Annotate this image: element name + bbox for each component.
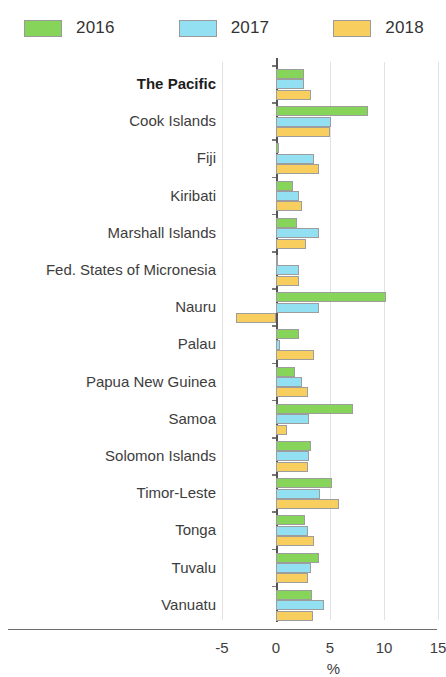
bar-2016-nauru <box>276 292 386 302</box>
category-label-solomon-islands: Solomon Islands <box>105 448 216 463</box>
category-label-samoa: Samoa <box>168 411 216 426</box>
category-tick <box>272 549 276 551</box>
bar-2016-fiji <box>276 143 279 153</box>
bar-2017-papua-new-guinea <box>276 377 302 387</box>
category-tick <box>272 474 276 476</box>
category-tick <box>272 325 276 327</box>
category-label-marshall-islands: Marshall Islands <box>108 225 216 240</box>
x-axis-title: % <box>222 660 445 677</box>
x-tick-label--5: -5 <box>215 639 228 656</box>
x-tick-label-5: 5 <box>326 639 334 656</box>
bar-2018-samoa <box>276 425 287 435</box>
category-tick <box>272 511 276 513</box>
bar-2016-fed-states-of-micronesia <box>276 255 278 265</box>
bar-2016-cook-islands <box>276 106 368 116</box>
bar-2018-timor-leste <box>276 499 339 509</box>
category-label-the-pacific: The Pacific <box>137 76 216 91</box>
gridline-15 <box>438 62 439 620</box>
bar-2016-timor-leste <box>276 478 332 488</box>
bar-2017-solomon-islands <box>276 451 309 461</box>
legend-swatch-2017 <box>179 20 217 37</box>
legend-item-2017[interactable]: 2017 <box>179 18 270 38</box>
gridline-5 <box>330 62 331 620</box>
bar-2018-tuvalu <box>276 573 308 583</box>
chart-legend: 201620172018 <box>0 0 445 56</box>
category-label-kiribati: Kiribati <box>170 188 216 203</box>
bar-2017-cook-islands <box>276 117 331 127</box>
bar-2018-kiribati <box>276 201 302 211</box>
category-label-tonga: Tonga <box>175 522 216 537</box>
bar-2016-solomon-islands <box>276 441 311 451</box>
bar-2016-kiribati <box>276 181 293 191</box>
bar-2016-palau <box>276 329 299 339</box>
bar-2018-solomon-islands <box>276 462 308 472</box>
bar-2018-vanuatu <box>276 611 313 621</box>
category-label-nauru: Nauru <box>175 299 216 314</box>
category-label-cook-islands: Cook Islands <box>129 113 216 128</box>
bar-2016-the-pacific <box>276 69 304 79</box>
bar-2018-palau <box>276 350 314 360</box>
bar-2018-marshall-islands <box>276 239 306 249</box>
bar-2018-fiji <box>276 164 319 174</box>
category-label-papua-new-guinea: Papua New Guinea <box>86 374 216 389</box>
category-label-palau: Palau <box>178 336 216 351</box>
bar-2018-nauru <box>236 313 276 323</box>
x-axis-ticks: -5051015 <box>222 630 445 660</box>
bar-2017-tonga <box>276 526 308 536</box>
category-tick <box>272 177 276 179</box>
bar-2017-tuvalu <box>276 563 311 573</box>
bar-2017-nauru <box>276 303 319 313</box>
category-tick <box>272 65 276 67</box>
category-tick <box>272 363 276 365</box>
bar-2016-tonga <box>276 515 305 525</box>
bar-2017-timor-leste <box>276 489 320 499</box>
category-tick <box>272 437 276 439</box>
category-tick <box>272 214 276 216</box>
bar-2018-the-pacific <box>276 90 311 100</box>
legend-swatch-2018 <box>333 20 371 37</box>
legend-label-2018: 2018 <box>385 18 424 38</box>
plot-area <box>222 56 445 632</box>
category-tick <box>272 251 276 253</box>
x-tick-label-10: 10 <box>376 639 393 656</box>
legend-label-2016: 2016 <box>76 18 115 38</box>
category-label-fiji: Fiji <box>197 150 216 165</box>
bar-2017-vanuatu <box>276 600 324 610</box>
bar-2017-fed-states-of-micronesia <box>276 265 299 275</box>
bar-2017-palau <box>276 340 280 350</box>
legend-item-2016[interactable]: 2016 <box>24 18 115 38</box>
bar-2016-tuvalu <box>276 553 319 563</box>
category-tick <box>272 139 276 141</box>
legend-label-2017: 2017 <box>231 18 270 38</box>
bar-2016-samoa <box>276 404 353 414</box>
legend-item-2018[interactable]: 2018 <box>333 18 424 38</box>
bar-2017-fiji <box>276 154 314 164</box>
bar-2017-samoa <box>276 414 309 424</box>
category-label-timor-leste: Timor-Leste <box>137 485 216 500</box>
legend-swatch-2016 <box>24 20 62 37</box>
x-tick-label-15: 15 <box>430 639 446 656</box>
bar-2016-marshall-islands <box>276 218 297 228</box>
bar-2018-fed-states-of-micronesia <box>276 276 299 286</box>
gridline--5 <box>222 62 223 620</box>
category-tick <box>272 288 276 290</box>
category-label-vanuatu: Vanuatu <box>161 597 216 612</box>
bar-2018-tonga <box>276 536 314 546</box>
bar-2016-vanuatu <box>276 590 312 600</box>
chart-area: The PacificCook IslandsFijiKiribatiMarsh… <box>0 56 445 677</box>
x-tick-label-0: 0 <box>272 639 280 656</box>
bar-2017-the-pacific <box>276 79 304 89</box>
bar-2017-marshall-islands <box>276 228 319 238</box>
bar-2017-kiribati <box>276 191 299 201</box>
bar-2018-papua-new-guinea <box>276 387 308 397</box>
category-label-tuvalu: Tuvalu <box>172 560 216 575</box>
category-tick <box>272 400 276 402</box>
category-label-fed-states-of-micronesia: Fed. States of Micronesia <box>46 262 216 277</box>
category-tick <box>272 102 276 104</box>
bar-2016-papua-new-guinea <box>276 367 295 377</box>
category-tick <box>272 586 276 588</box>
gridline-10 <box>384 62 385 620</box>
bar-2018-cook-islands <box>276 127 330 137</box>
